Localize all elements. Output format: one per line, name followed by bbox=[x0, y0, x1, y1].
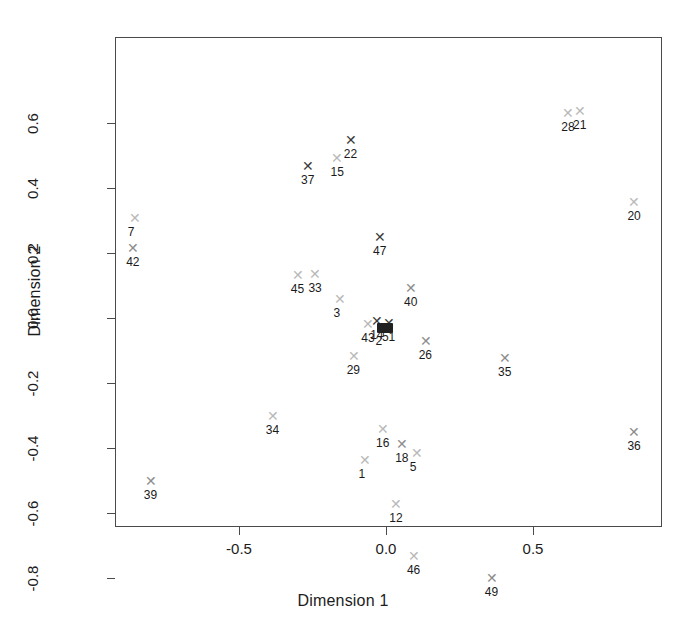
overlapping-marker-cluster bbox=[377, 323, 393, 333]
y-tick-mark bbox=[107, 578, 115, 579]
y-tick-label: -0.8 bbox=[24, 524, 41, 632]
x-tick-label: 0.5 bbox=[498, 540, 568, 557]
x-tick-label: 0.0 bbox=[351, 540, 421, 557]
y-tick-mark bbox=[107, 253, 115, 254]
y-tick-mark bbox=[107, 318, 115, 319]
y-tick-mark bbox=[107, 448, 115, 449]
y-tick-mark bbox=[107, 123, 115, 124]
data-point-label: 46 bbox=[407, 564, 420, 576]
y-axis-title: Dimension 2 bbox=[26, 171, 44, 411]
x-tick-mark bbox=[533, 527, 534, 535]
x-tick-label: -0.5 bbox=[204, 540, 274, 557]
scatter-plot-figure: -0.50.00.5 0.60.40.20.0-0.2-0.4-0.6-0.8 … bbox=[0, 0, 686, 643]
x-tick-mark bbox=[239, 527, 240, 535]
plot-area bbox=[115, 37, 662, 527]
y-tick-mark bbox=[107, 513, 115, 514]
cross-marker-icon: ✕ bbox=[486, 571, 498, 585]
x-tick-mark bbox=[386, 527, 387, 535]
x-axis-title: Dimension 1 bbox=[0, 592, 686, 610]
y-tick-mark bbox=[107, 188, 115, 189]
y-tick-mark bbox=[107, 383, 115, 384]
